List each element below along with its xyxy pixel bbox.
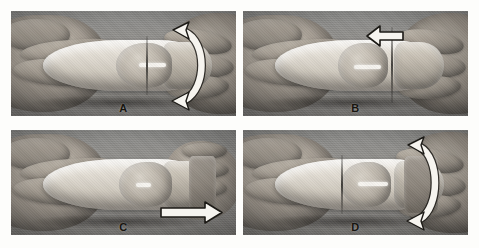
inhaler-device-d — [275, 159, 442, 209]
inhaler-device-c — [43, 159, 210, 209]
inhaler-device-b — [275, 40, 442, 90]
device-cap-c — [189, 156, 216, 212]
panel-d: D — [243, 130, 468, 235]
panel-label-c: C — [11, 221, 236, 233]
panel-b: B — [243, 11, 468, 116]
panel-label-b: B — [243, 102, 468, 114]
device-marker-c — [136, 183, 151, 187]
device-mouthpiece-b — [394, 42, 444, 88]
panel-label-d: D — [243, 221, 468, 233]
device-seam-b — [391, 27, 393, 103]
panel-a: A — [11, 11, 236, 116]
device-cap-d — [404, 156, 437, 212]
panel-label-a: A — [11, 102, 236, 114]
device-seam-d — [341, 155, 343, 213]
inhaler-device-a — [43, 40, 210, 90]
device-marker-a — [139, 63, 166, 67]
figure-container: A B — [0, 0, 479, 248]
device-seam-a — [146, 36, 148, 94]
device-marker-b — [354, 65, 381, 69]
device-marker-d — [358, 182, 388, 186]
panel-c: C — [11, 130, 236, 235]
